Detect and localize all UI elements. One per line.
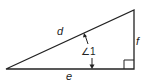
label-angle-1: ∠1 — [81, 46, 96, 57]
label-e: e — [66, 70, 72, 81]
label-f: f — [136, 35, 140, 47]
right-triangle-diagram: d e f ∠1 — [0, 0, 143, 81]
triangle — [6, 10, 134, 69]
right-angle-marker — [124, 60, 134, 69]
arrowhead-down-icon — [90, 65, 95, 70]
label-d: d — [57, 25, 64, 37]
